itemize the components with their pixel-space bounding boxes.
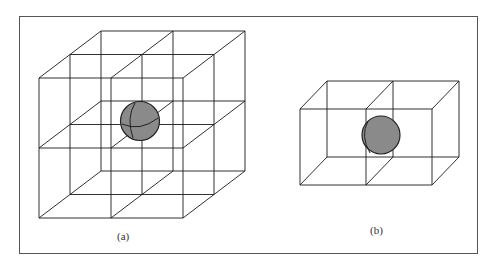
sphere-atom [362,116,400,154]
sphere-atom [121,102,160,141]
caption-a: (a) [117,230,129,242]
lattice-diagrams [0,0,494,266]
caption-b: (b) [370,224,383,236]
